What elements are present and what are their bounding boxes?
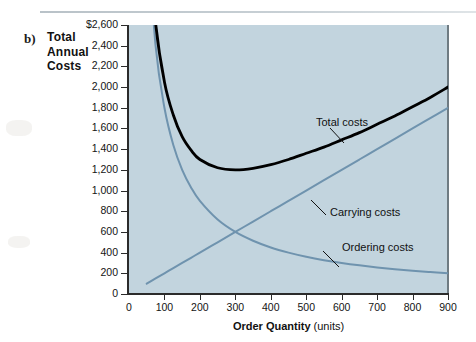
x-axis-title-units: (units): [314, 320, 345, 332]
figure-root: b) Total Annual Costs 02004006008001,000…: [0, 0, 476, 342]
series-label-carrying-costs: Carrying costs: [330, 206, 400, 218]
series-curve-total-costs: [147, 0, 448, 170]
series-curve-ordering-costs: [147, 0, 448, 273]
series-layer: [0, 0, 476, 342]
series-curve-carrying-costs: [147, 108, 448, 284]
leader-ordering-costs: [323, 251, 339, 267]
series-label-ordering-costs: Ordering costs: [342, 241, 414, 253]
series-label-total-costs: Total costs: [316, 116, 368, 128]
x-axis-title: Order Quantity (units): [129, 320, 448, 332]
leader-carrying-costs: [311, 200, 326, 215]
x-axis-title-bold: Order Quantity: [233, 320, 311, 332]
